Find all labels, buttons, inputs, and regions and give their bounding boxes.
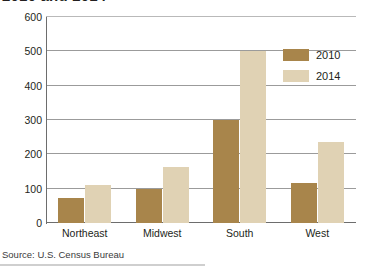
bar-midwest-2014[interactable] (163, 167, 189, 223)
legend-label-2014: 2014 (316, 70, 340, 82)
x-axis-tick-labels: NortheastMidwestSouthWest (46, 227, 356, 243)
y-tick-label-100: 100 (2, 183, 42, 195)
legend: 20102014 (283, 44, 371, 86)
bar-northeast-2010[interactable] (58, 198, 84, 223)
y-tick-label-600: 600 (2, 11, 42, 23)
bar-west-2014[interactable] (318, 142, 344, 223)
bar-northeast-2014[interactable] (85, 185, 111, 223)
x-tick-label-northeast: Northeast (62, 227, 108, 239)
x-tick-label-midwest: Midwest (143, 227, 182, 239)
bar-group-south (213, 17, 266, 223)
source-note: Source: U.S. Census Bureau (2, 249, 124, 260)
y-axis-tick-labels: 0100200300400500600 (0, 17, 42, 223)
bar-west-2010[interactable] (291, 183, 317, 224)
y-tick-label-0: 0 (2, 217, 42, 229)
legend-swatch-2010 (283, 49, 309, 61)
bar-midwest-2010[interactable] (136, 189, 162, 223)
y-tick-label-200: 200 (2, 148, 42, 160)
y-tick-label-300: 300 (2, 114, 42, 126)
bar-group-northeast (58, 17, 111, 223)
bar-group-midwest (136, 17, 189, 223)
bar-south-2010[interactable] (213, 120, 239, 223)
x-tick-label-west: West (305, 227, 329, 239)
y-tick-label-500: 500 (2, 45, 42, 57)
legend-item-2014[interactable]: 2014 (283, 65, 371, 86)
legend-label-2010: 2010 (316, 49, 340, 61)
x-tick-label-south: South (226, 227, 253, 239)
chart-title: 2010 and 2014 (2, 0, 106, 4)
bar-south-2014[interactable] (240, 51, 266, 223)
legend-swatch-2014 (283, 70, 309, 82)
legend-item-2010[interactable]: 2010 (283, 44, 371, 65)
y-tick-label-400: 400 (2, 80, 42, 92)
